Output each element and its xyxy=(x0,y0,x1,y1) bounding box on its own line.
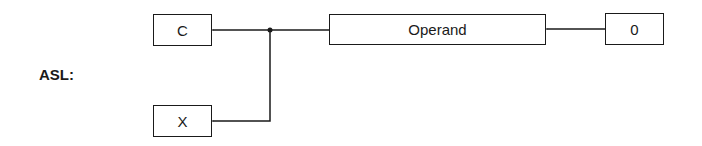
operand-box-label: Operand xyxy=(408,21,466,38)
carry-box: C xyxy=(153,14,212,46)
carry-box-label: C xyxy=(177,22,188,39)
arrow-operand-to-x xyxy=(213,30,270,121)
x-box: X xyxy=(153,105,212,137)
x-box-label: X xyxy=(177,113,187,130)
instruction-label: ASL: xyxy=(39,66,74,83)
zero-box-label: 0 xyxy=(630,21,638,38)
zero-box: 0 xyxy=(605,13,664,45)
operand-box: Operand xyxy=(329,14,546,45)
